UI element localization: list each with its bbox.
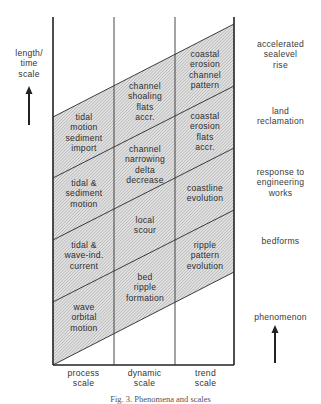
column-label-dynamic: dynamic scale — [114, 368, 175, 389]
cell-dynamic-3: local scour — [115, 215, 175, 236]
phenomenon-1: accelerated sealevel rise — [240, 39, 321, 70]
cell-trend-2: coastal erosion flats accr. — [176, 111, 234, 152]
cell-trend-4: ripple pattern evolution — [176, 240, 234, 271]
phenomenon-4: bedforms — [240, 236, 321, 246]
cell-process-4: wave orbital motion — [55, 302, 113, 333]
y-axis-label: length/ time scale — [6, 48, 52, 79]
cell-dynamic-1: channel shoaling flats accr. — [115, 81, 175, 122]
cell-process-1: tidal motion sediment import — [55, 112, 113, 153]
cell-process-2: tidal & sediment motion — [55, 178, 113, 209]
up-arrow-icon — [272, 325, 279, 363]
phenomenon-2: land reclamation — [240, 106, 321, 127]
phenomenon-axis-label: phenomenon — [240, 312, 321, 322]
cell-trend-1: coastal erosion channel pattern — [176, 49, 234, 90]
cell-dynamic-4: bed ripple formation — [115, 272, 175, 303]
column-label-process: process scale — [53, 368, 114, 389]
cell-trend-3: coastline evolution — [176, 183, 234, 204]
figure-caption: Fig. 3. Phenomena and scales — [0, 394, 321, 404]
up-arrow-icon — [26, 86, 33, 125]
cell-dynamic-2: channel narrowing delta decrease — [115, 144, 175, 185]
cell-process-3: tidal & wave-ind. current — [55, 240, 113, 271]
column-label-trend: trend scale — [175, 368, 236, 389]
phenomenon-3: response to engineering works — [240, 167, 321, 198]
